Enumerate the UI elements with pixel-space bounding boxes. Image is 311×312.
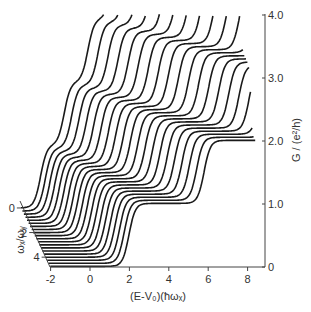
depth-tick-label: 4 (34, 251, 40, 263)
x-tick-label: 4 (166, 273, 172, 285)
conductance-curve (29, 15, 173, 223)
y-axis: 01.02.03.04.0 G / (e²/h) (262, 9, 302, 273)
y-tick-label: 0 (268, 261, 274, 273)
y-axis-title: G / (e²/h) (290, 118, 302, 162)
x-tick-label: 6 (205, 273, 211, 285)
y-tick-label: 4.0 (268, 9, 283, 21)
conductance-curve (22, 15, 117, 211)
conductance-curve (24, 15, 132, 214)
conductance-curve (21, 15, 104, 208)
conductance-waterfall-chart: -202468 (E-V₀)(ħωₓ) 01.02.03.04.0 G / (e… (0, 0, 311, 312)
x-axis-title: (E-V₀)(ħωₓ) (130, 290, 186, 302)
conductance-curve (27, 14, 159, 220)
curves-group (21, 14, 255, 266)
x-tick-label: 0 (87, 273, 93, 285)
y-tick-label: 1.0 (268, 198, 283, 210)
x-ticks: -202468 (46, 267, 251, 285)
x-tick-label: 8 (245, 273, 251, 285)
depth-tick-label: 0 (9, 202, 15, 214)
conductance-curve (39, 56, 244, 245)
y-tick-label: 2.0 (268, 135, 283, 147)
depth-axis-title: ωₓ/ωᵧ (14, 226, 27, 254)
x-tick-label: -2 (46, 273, 56, 285)
x-axis: -202468 (E-V₀)(ħωₓ) (46, 267, 265, 302)
x-tick-label: 2 (126, 273, 132, 285)
conductance-curve (46, 92, 251, 257)
y-tick-label: 3.0 (268, 72, 283, 84)
